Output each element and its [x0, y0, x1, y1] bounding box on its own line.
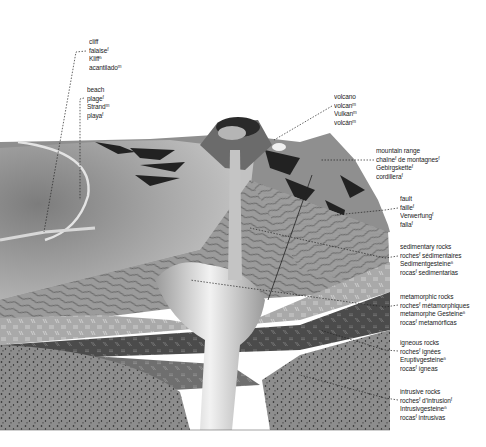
label-igneous-rocks: igneous rocks rochesᶠ ignées Eruptivgest… [400, 339, 446, 373]
label-cliff: cliff falaiseᶠ Kliffⁿ acantiladoᵐ [89, 38, 121, 72]
label-volcano: volcano volcanᵐ Vulkanᵐ volcánᵐ [334, 93, 357, 127]
term-es: cordilleraᶠ [376, 173, 440, 182]
term-es: rocasᶠ ígneas [400, 365, 446, 374]
label-sedimentary-rocks: sedimentary rocks rochesᶠ sédimentaires … [400, 243, 461, 277]
label-beach: beach plageᶠ Strandᵐ playaᶠ [87, 86, 109, 120]
term-es: acantiladoᵐ [89, 64, 121, 73]
label-intrusive-rocks: intrusive rocks rochesᶠ d’intrusionᶠ Int… [400, 388, 452, 422]
term-es: playaᶠ [87, 112, 109, 121]
snow-peak [272, 143, 286, 151]
label-fault: fault failleᶠ Verwerfungᶠ fallaᶠ [400, 195, 433, 229]
term-es: rocasᶠ intrusivas [400, 414, 452, 423]
term-es: rocasᶠ sedimentarias [400, 269, 461, 278]
term-es: fallaᶠ [400, 221, 433, 230]
label-metamorphic-rocks: metamorphic rocks rochesᶠ métamorphiques… [400, 293, 469, 327]
magma-conduit [228, 150, 242, 280]
intrusive-layer [0, 345, 190, 430]
label-mountain-range: mountain range chaîneᶠ de montagnesᶠ Geb… [376, 147, 440, 181]
term-es: rocasᶠ metamórficas [400, 319, 469, 328]
term-es: volcánᵐ [334, 119, 357, 128]
